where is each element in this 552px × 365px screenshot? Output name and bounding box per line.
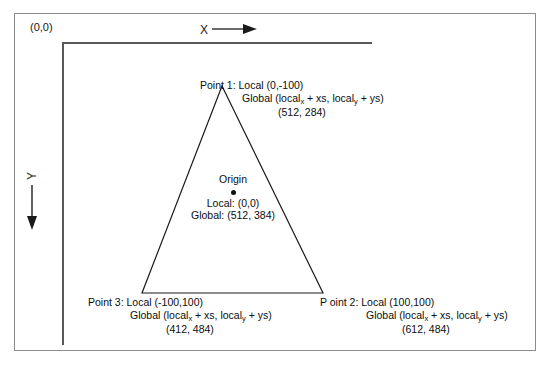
arrow-right-icon xyxy=(212,21,258,39)
point-1-global-value: (512, 284) xyxy=(200,106,384,119)
label-origin: Origin Local: (0,0) Global: (512, 384) xyxy=(178,173,288,222)
label-point-3: Point 3: Local (-100,100) Global (localx… xyxy=(88,296,272,336)
label-point-2: P oint 2: Local (100,100) Global (localx… xyxy=(320,296,508,336)
origin-title: Origin xyxy=(178,173,288,186)
point-1-global-formula: Global (localx + xs, localy + ys) xyxy=(200,92,384,107)
point-2-global-value: (612, 484) xyxy=(320,323,508,336)
y-axis-label: Y xyxy=(26,172,38,180)
point-3-local-text: Point 3: Local (-100,100) xyxy=(88,296,272,309)
origin-dot-row xyxy=(178,186,288,197)
arrow-down-icon xyxy=(26,185,38,235)
diagram-canvas: (0,0) X Y Point 1: Local (0,-100) Global… xyxy=(0,0,552,365)
point-3-global-value: (412, 484) xyxy=(88,323,272,336)
point-1-local-text: Point 1: Local (0,-100) xyxy=(200,79,384,92)
point-2-local-text: P oint 2: Local (100,100) xyxy=(320,296,508,309)
point-3-global-formula: Global (localx + xs, localy + ys) xyxy=(88,309,272,324)
filled-dot-icon xyxy=(231,190,236,195)
y-axis-direction: Y xyxy=(26,170,38,235)
x-axis-line xyxy=(62,42,372,44)
point-2-global-formula: Global (localx + xs, localy + ys) xyxy=(320,309,508,324)
origin-local-text: Local: (0,0) xyxy=(178,197,288,210)
global-origin-label: (0,0) xyxy=(30,21,53,33)
y-axis-line xyxy=(62,42,64,345)
x-axis-label: X xyxy=(200,24,208,36)
x-axis-direction: X xyxy=(200,21,258,39)
origin-global-text: Global: (512, 384) xyxy=(178,209,288,222)
label-point-1: Point 1: Local (0,-100) Global (localx +… xyxy=(200,79,384,119)
